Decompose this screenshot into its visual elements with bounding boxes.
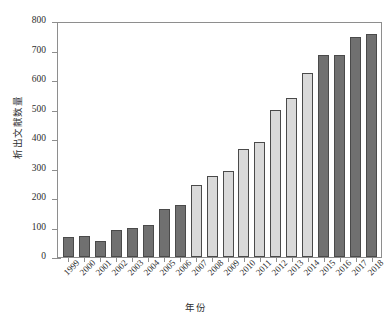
bar-slot bbox=[204, 23, 220, 257]
bar-slot bbox=[109, 23, 125, 257]
bar bbox=[238, 149, 249, 257]
y-axis-tick-label: 700 bbox=[32, 45, 46, 55]
bar-slot bbox=[300, 23, 316, 257]
bar-slot bbox=[268, 23, 284, 257]
bar bbox=[63, 237, 74, 257]
x-axis-tick-label: 2018 bbox=[366, 258, 386, 278]
bar bbox=[79, 236, 90, 257]
plot-area bbox=[57, 22, 382, 258]
bar bbox=[191, 185, 202, 257]
bar bbox=[334, 55, 345, 257]
y-axis-tick-label: 500 bbox=[32, 104, 46, 114]
bar bbox=[111, 230, 122, 257]
bar-slot bbox=[125, 23, 141, 257]
bar bbox=[127, 228, 138, 258]
bar bbox=[318, 55, 329, 257]
bar bbox=[286, 98, 297, 257]
bar bbox=[223, 171, 234, 257]
bar bbox=[366, 34, 377, 257]
bar-slot bbox=[284, 23, 300, 257]
bar bbox=[95, 241, 106, 257]
bar-slot bbox=[188, 23, 204, 257]
y-axis-tick-label: 200 bbox=[32, 192, 46, 202]
bar-slot bbox=[316, 23, 332, 257]
bar-slot bbox=[141, 23, 157, 257]
bar bbox=[350, 37, 361, 257]
y-axis-tick-label: 300 bbox=[32, 163, 46, 173]
bar-slot bbox=[236, 23, 252, 257]
bar-slot bbox=[172, 23, 188, 257]
y-axis-tick-label: 800 bbox=[32, 15, 46, 25]
bar-slot bbox=[347, 23, 363, 257]
bar bbox=[175, 205, 186, 257]
bar-slot bbox=[93, 23, 109, 257]
y-axis-ticks: 0100200300400500600700800 bbox=[0, 22, 57, 258]
y-axis-tick-label: 400 bbox=[32, 133, 46, 143]
bar-slot bbox=[252, 23, 268, 257]
bar-slot bbox=[220, 23, 236, 257]
bar-slot bbox=[77, 23, 93, 257]
bars-layer bbox=[58, 23, 381, 257]
bar bbox=[254, 142, 265, 257]
x-axis-title: 年份 bbox=[0, 300, 391, 314]
y-axis-tick-label: 0 bbox=[41, 251, 46, 261]
bar bbox=[159, 209, 170, 257]
bar-slot bbox=[61, 23, 77, 257]
bar-slot bbox=[156, 23, 172, 257]
y-axis-tick-label: 100 bbox=[32, 222, 46, 232]
bar bbox=[143, 225, 154, 257]
y-axis-tick-label: 600 bbox=[32, 74, 46, 84]
bar bbox=[302, 73, 313, 257]
bar-chart: 析出文献数量 0100200300400500600700800 1999200… bbox=[0, 0, 391, 324]
bar-slot bbox=[363, 23, 379, 257]
bar bbox=[207, 176, 218, 257]
bar-slot bbox=[331, 23, 347, 257]
bar bbox=[270, 110, 281, 258]
